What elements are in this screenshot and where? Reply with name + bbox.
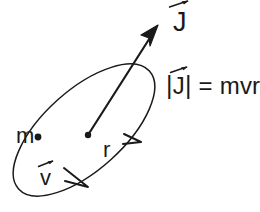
mass-point-dot [35, 134, 42, 141]
angular-momentum-diagram: J | J |= mvr m r v [0, 0, 260, 212]
vector-arrow-icon [169, 66, 188, 74]
motion-arrowhead-lower [64, 168, 88, 187]
vector-j-glyph-equation: J [173, 67, 185, 98]
angular-momentum-arrow [88, 25, 158, 135]
physics-figure-canvas [0, 0, 260, 212]
label-radius: r [103, 139, 110, 161]
label-magnitude-equation: | J |= mvr [166, 66, 260, 98]
motion-arrowhead-right [123, 134, 141, 144]
arrowhead-glyph-right [123, 134, 141, 144]
vector-arrow-icon [37, 160, 54, 168]
j-arrow-head [141, 25, 158, 46]
vector-arrow-icon [169, 0, 190, 9]
label-velocity-vector: v [40, 160, 51, 189]
vector-j-glyph: J [170, 2, 189, 36]
label-mass: m [16, 125, 34, 147]
label-angular-momentum-vector: J [170, 2, 189, 36]
vector-v-glyph: v [40, 160, 51, 189]
arrowhead-glyph-lower [64, 168, 88, 187]
equation-tail-text: = mvr [192, 67, 260, 98]
